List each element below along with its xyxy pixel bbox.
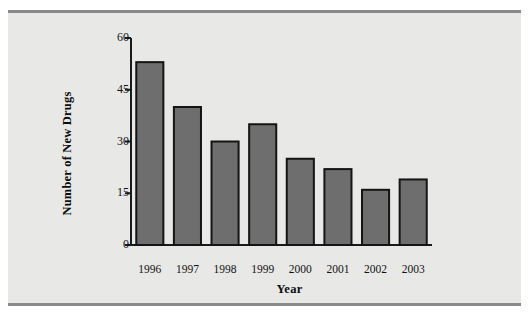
bar-2003[interactable] [400,179,427,245]
bar-1997[interactable] [174,107,201,245]
x-axis-tick-label-1998: 1998 [206,262,244,276]
chart-plot-area: 015304560 Number of New Drugs Year 19961… [8,13,521,303]
bar-1996[interactable] [136,62,163,245]
y-axis-title: Number of New Drugs [60,74,75,234]
bar-2001[interactable] [324,169,351,245]
figure: 015304560 Number of New Drugs Year 19961… [0,0,529,316]
x-axis-tick-label-2000: 2000 [282,262,320,276]
x-axis-title: Year [139,282,440,297]
bottom-rule [8,303,521,306]
x-axis-tick-label-1996: 1996 [131,262,169,276]
x-axis-tick-label-2002: 2002 [357,262,395,276]
y-axis-tick-label: 0 [103,238,129,250]
y-axis-tick-label: 45 [103,83,129,95]
x-axis-tick-label-1999: 1999 [244,262,282,276]
bar-chart-svg [8,13,521,303]
x-axis-tick-label-2001: 2001 [319,262,357,276]
bar-2002[interactable] [362,190,389,245]
bar-1999[interactable] [249,124,276,245]
y-axis-tick-label: 60 [103,31,129,43]
x-axis-tick-label-2003: 2003 [394,262,432,276]
y-axis-tick-labels: 015304560 [101,13,129,303]
y-axis-tick-label: 15 [103,186,129,198]
x-axis-tick-label-1997: 1997 [169,262,207,276]
y-axis-tick-label: 30 [103,135,129,147]
bar-2000[interactable] [287,159,314,245]
bar-1998[interactable] [212,142,239,246]
